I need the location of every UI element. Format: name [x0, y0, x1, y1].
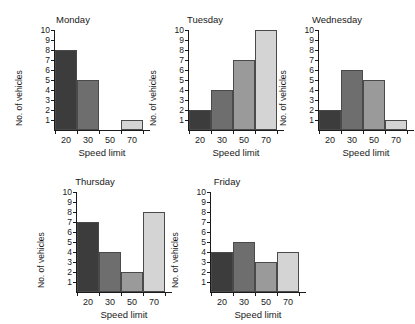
x-axis-tick — [121, 293, 122, 296]
y-axis-tick-label: 1 — [42, 278, 72, 287]
y-axis-tick-label: 5 — [20, 76, 50, 85]
y-axis-tick-label: 3 — [154, 96, 184, 105]
y-axis-tick — [51, 90, 54, 91]
chart-title: Thursday — [30, 176, 160, 187]
bar — [255, 262, 277, 292]
y-axis-tick-label: 10 — [20, 26, 50, 35]
y-axis-tick-label: 7 — [42, 218, 72, 227]
y-axis-tick — [51, 40, 54, 41]
y-axis-tick-label: 9 — [20, 36, 50, 45]
x-axis-title: Speed limit — [54, 147, 150, 158]
x-axis-tick — [255, 293, 256, 296]
y-axis-tick-label: 5 — [154, 76, 184, 85]
y-axis-tick — [315, 100, 318, 101]
y-axis-tick — [185, 60, 188, 61]
y-axis-tick — [315, 70, 318, 71]
x-axis-line — [318, 130, 414, 131]
y-axis-tick-label: 1 — [20, 116, 50, 125]
y-axis-tick — [207, 252, 210, 253]
y-axis-tick-label: 6 — [284, 66, 314, 75]
y-axis-tick-label: 4 — [154, 86, 184, 95]
chart-panel: Thursday12345678910No. of vehicles203050… — [30, 176, 160, 324]
x-axis-tick — [319, 131, 320, 134]
x-axis-line — [54, 130, 150, 131]
x-axis-line — [188, 130, 284, 131]
chart-title: Wednesday — [272, 14, 402, 25]
y-axis-tick-label: 8 — [176, 208, 206, 217]
y-axis-tick — [51, 110, 54, 111]
y-axis-tick — [73, 212, 76, 213]
chart-title: Tuesday — [142, 14, 268, 25]
x-axis-tick — [277, 293, 278, 296]
y-axis-tick-label: 6 — [176, 228, 206, 237]
y-axis-tick-label: 9 — [42, 198, 72, 207]
bar — [211, 90, 233, 130]
bar — [363, 80, 385, 130]
x-axis-tick — [55, 131, 56, 134]
y-axis-tick — [315, 60, 318, 61]
y-axis-tick — [185, 100, 188, 101]
x-axis-tick — [77, 131, 78, 134]
y-axis-tick-label: 3 — [284, 96, 314, 105]
y-axis-tick — [207, 232, 210, 233]
y-axis-tick — [315, 110, 318, 111]
y-axis-tick — [207, 212, 210, 213]
y-axis-tick — [185, 90, 188, 91]
y-axis-tick — [315, 50, 318, 51]
y-axis-tick-label: 1 — [154, 116, 184, 125]
x-axis-line — [76, 292, 172, 293]
y-axis-tick — [51, 100, 54, 101]
y-axis-tick-label: 4 — [42, 248, 72, 257]
y-axis-tick — [315, 90, 318, 91]
x-axis-tick — [121, 131, 122, 134]
bar — [143, 212, 165, 292]
x-axis-tick — [299, 293, 300, 296]
y-axis-tick-label: 2 — [20, 106, 50, 115]
y-axis-tick-label: 7 — [154, 56, 184, 65]
y-axis-tick-label: 3 — [176, 258, 206, 267]
y-axis-tick-label: 2 — [284, 106, 314, 115]
y-axis-tick — [207, 222, 210, 223]
y-axis-tick-label: 4 — [284, 86, 314, 95]
x-axis-title: Speed limit — [188, 147, 284, 158]
y-axis-tick-label: 6 — [154, 66, 184, 75]
bar — [233, 242, 255, 292]
bar — [77, 222, 99, 292]
x-axis-tick — [211, 131, 212, 134]
x-axis-tick — [99, 131, 100, 134]
chart-panel: Tuesday12345678910No. of vehicles2030507… — [142, 14, 268, 162]
y-axis-tick-label: 8 — [154, 46, 184, 55]
x-axis-tick — [385, 131, 386, 134]
y-axis-tick-label: 4 — [176, 248, 206, 257]
bar — [55, 50, 77, 130]
bar — [121, 272, 143, 292]
y-axis-tick — [73, 222, 76, 223]
y-axis-tick — [315, 30, 318, 31]
y-axis-tick — [73, 252, 76, 253]
y-axis-tick — [207, 282, 210, 283]
y-axis-tick-label: 10 — [176, 188, 206, 197]
x-axis-tick — [143, 293, 144, 296]
y-axis-tick-label: 5 — [284, 76, 314, 85]
y-axis-tick — [185, 80, 188, 81]
y-axis-tick-label: 10 — [42, 188, 72, 197]
x-axis-tick — [233, 293, 234, 296]
bar — [77, 80, 99, 130]
bar — [319, 110, 341, 130]
x-axis-tick — [77, 293, 78, 296]
y-axis-tick-label: 7 — [176, 218, 206, 227]
bar — [341, 70, 363, 130]
bar — [277, 252, 299, 292]
y-axis-tick — [315, 40, 318, 41]
bar — [99, 252, 121, 292]
y-axis-tick — [73, 242, 76, 243]
x-axis-tick — [407, 131, 408, 134]
y-axis-tick — [315, 80, 318, 81]
y-axis-tick — [51, 50, 54, 51]
y-axis-tick — [207, 262, 210, 263]
y-axis-tick — [73, 202, 76, 203]
y-axis-title: No. of vehicles — [170, 232, 180, 288]
y-axis-tick — [73, 232, 76, 233]
y-axis-tick-label: 6 — [42, 228, 72, 237]
